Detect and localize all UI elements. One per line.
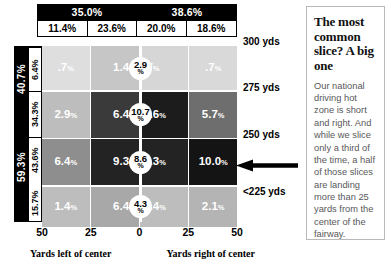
row-percent-label-bar: 6.4%34.3%43.6%15.7% (28, 46, 42, 222)
heatmap-cell-r2-c3: 10.0% (189, 139, 237, 185)
panel-headline: The most common slice? A big one (314, 15, 378, 74)
row-total-percent-symbol: % (137, 208, 143, 215)
row-percent-label-2: 43.6% (29, 137, 41, 183)
heatmap-cell-r1-c3: 5.7% (189, 92, 237, 138)
panel-body-text: Our national driving hot zone is short a… (314, 80, 378, 241)
distance-label-0: 300 yds (243, 36, 280, 47)
row-total-percent-symbol: % (137, 69, 143, 76)
heatmap-cell-value: .7% (58, 62, 74, 74)
column-group-right: 38.6% (137, 4, 237, 20)
row-total-percent-symbol: % (137, 116, 143, 123)
dispersion-heatmap-chart: 35.0% 38.6% 11.4%23.6%20.0%18.6% 40.7% 5… (0, 0, 300, 277)
heatmap-cell-value: 1.4% (54, 201, 77, 213)
heatmap-cell-value: 2.1% (202, 201, 225, 213)
column-header-3: 18.6% (187, 21, 237, 36)
left-arrow-icon (236, 158, 298, 171)
x-axis-tick-3: 25 (182, 226, 194, 238)
x-axis-captions: Yards left of center Yards right of cent… (30, 248, 255, 259)
row-percent-label-3: 15.7% (29, 183, 41, 223)
row-total-circle-2: 8.6% (129, 151, 152, 174)
row-total-circle-0: 2.9% (129, 57, 152, 80)
column-header-1: 23.6% (88, 21, 138, 36)
x-axis-tick-1: 25 (85, 226, 97, 238)
x-axis-tick-0: 50 (36, 226, 48, 238)
heatmap-cell-r1-c0: 2.9% (42, 92, 90, 138)
x-axis-ticks: 502502550 (42, 226, 237, 240)
column-header-0: 11.4% (38, 21, 88, 36)
row-percent-label-1: 34.3% (29, 91, 41, 137)
distance-label-2: 250 yds (243, 129, 280, 140)
column-group-header: 35.0% 38.6% (37, 4, 237, 20)
column-group-left: 35.0% (37, 4, 137, 20)
x-axis-label-right: Yards right of center (166, 248, 255, 259)
row-total-circle-3: 4.3% (129, 195, 152, 218)
row-group-total-bar: 40.7% 59.3% (14, 46, 28, 222)
heatmap-cell-r0-c3: .7% (189, 46, 237, 90)
heatmap-cell-value: 5.7% (202, 109, 225, 121)
heatmap-cell-r2-c0: 6.4% (42, 139, 90, 185)
heatmap-cell-value: 6.4% (54, 156, 77, 168)
row-total-percent-symbol: % (137, 163, 143, 170)
heatmap-cell-r3-c3: 2.1% (189, 187, 237, 227)
heatmap-cell-value: .7% (205, 62, 221, 74)
row-group-total-top: 40.7% (14, 46, 28, 113)
distance-label-3: <225 yds (243, 186, 286, 197)
row-group-total-bottom: 59.3% (14, 113, 28, 222)
heatmap-cell-r3-c0: 1.4% (42, 187, 90, 227)
x-axis-tick-2: 0 (137, 226, 143, 238)
heatmap-cell-value: 10.0% (199, 156, 228, 168)
heatmap-cell-r0-c0: .7% (42, 46, 90, 90)
x-axis-tick-4: 50 (231, 226, 243, 238)
infographic-root: 35.0% 38.6% 11.4%23.6%20.0%18.6% 40.7% 5… (0, 0, 391, 277)
commentary-panel: The most common slice? A big one Our nat… (306, 6, 385, 240)
distance-label-1: 275 yds (243, 82, 280, 93)
column-header-row: 11.4%23.6%20.0%18.6% (37, 20, 237, 37)
row-percent-label-0: 6.4% (29, 47, 41, 91)
heatmap-cell-value: 2.9% (54, 109, 77, 121)
x-axis-label-left: Yards left of center (30, 248, 111, 259)
row-total-circle-1: 10.7% (129, 103, 152, 126)
column-header-2: 20.0% (137, 21, 187, 36)
